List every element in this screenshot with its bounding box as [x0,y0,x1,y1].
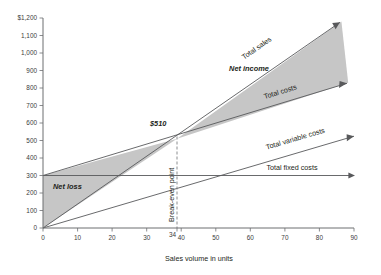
y-tick-label: $1,200 [17,14,37,21]
x-tick-label-breakeven: 34 [169,231,177,238]
x-tick-label: 80 [316,234,324,241]
total-variable-costs-arrow-icon [347,134,354,141]
net-loss-label: Net loss [53,182,82,191]
y-tick-label: 0 [33,224,37,231]
y-tick-label: 900 [26,67,37,74]
y-tick-label: 200 [26,189,37,196]
total-sales-label: Total sales [240,34,273,61]
y-tick-label: 800 [26,84,37,91]
y-tick-label: 300 [26,172,37,179]
y-tick-label: 700 [26,102,37,109]
y-tick-label: 100 [26,207,37,214]
x-tick-label: 50 [212,234,220,241]
x-tick-label: 40 [178,234,186,241]
x-axis-title: Sales volume in units [165,254,233,263]
x-tick-label: 0 [41,234,45,241]
x-tick-label: 70 [281,234,289,241]
x-tick-label: 30 [143,234,151,241]
breakeven-value-label: $510 [149,119,167,128]
x-axis-ticks [43,228,354,232]
total-fixed-costs-label: Total fixed costs [266,163,318,172]
total-fixed-costs-arrow-icon [348,173,355,179]
breakeven-point-label: Break-even point [167,168,176,222]
y-tick-label: 1,100 [21,32,37,39]
y-tick-label: 1,000 [21,49,37,56]
y-tick-label: 500 [26,137,37,144]
y-axis-ticks [40,18,44,228]
total-costs-line [43,83,347,175]
total-sales-line [43,22,340,228]
chart-svg: 0 100 200 300 400 500 600 700 800 900 1,… [0,0,381,275]
total-variable-costs-label: Total variable costs [265,126,327,152]
x-tick-label: 60 [247,234,255,241]
breakeven-chart: 0 100 200 300 400 500 600 700 800 900 1,… [0,0,381,275]
x-tick-label: 90 [350,234,358,241]
y-tick-label: 600 [26,119,37,126]
y-tick-label: 400 [26,154,37,161]
x-tick-label: 10 [74,234,82,241]
net-income-label: Net income [229,64,269,73]
x-tick-label: 20 [109,234,117,241]
